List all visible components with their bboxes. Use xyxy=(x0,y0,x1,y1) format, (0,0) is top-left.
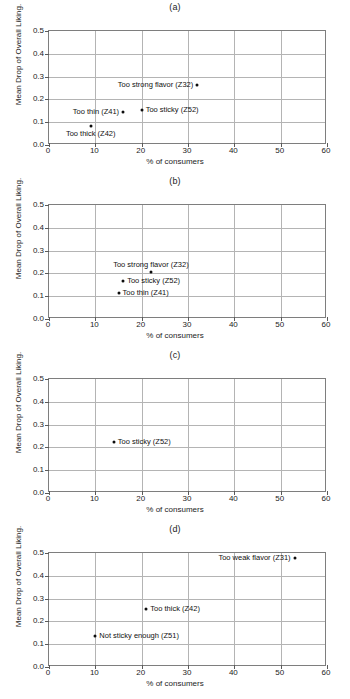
panel-d: (d)Mean Drop of Overall Liking.Too weak … xyxy=(0,522,350,696)
data-point-marker xyxy=(117,291,120,294)
y-tick-mark xyxy=(45,599,49,600)
data-point-label: Not sticky enough (Z51) xyxy=(99,632,179,640)
gridline-vertical xyxy=(142,379,143,491)
y-tick-label: 0.5 xyxy=(33,548,44,557)
y-tick-labels: 0.00.10.20.30.40.5 xyxy=(18,378,44,492)
gridline-horizontal xyxy=(49,228,325,229)
x-tick-label: 10 xyxy=(90,494,99,503)
y-tick-mark xyxy=(45,77,49,78)
data-point-label: Too weak flavor (Z31) xyxy=(218,554,290,562)
gridline-horizontal xyxy=(49,621,325,622)
gridline-horizontal xyxy=(49,425,325,426)
plot-area: Too weak flavor (Z31)Too thick (Z42)Not … xyxy=(48,552,326,666)
y-tick-label: 0.5 xyxy=(33,26,44,35)
y-tick-labels: 0.00.10.20.30.40.5 xyxy=(18,204,44,318)
data-point-marker xyxy=(122,279,125,282)
data-point-marker xyxy=(122,110,125,113)
y-tick-mark xyxy=(45,425,49,426)
x-tick-label: 40 xyxy=(229,146,238,155)
gridline-horizontal xyxy=(49,122,325,123)
x-tick-label: 20 xyxy=(136,320,145,329)
panel-title: (c) xyxy=(0,350,350,360)
y-tick-label: 0.1 xyxy=(33,639,44,648)
data-point-marker xyxy=(145,607,148,610)
x-tick-label: 30 xyxy=(183,320,192,329)
y-tick-label: 0.0 xyxy=(33,314,44,323)
y-tick-labels: 0.00.10.20.30.40.5 xyxy=(18,552,44,666)
gridline-horizontal xyxy=(49,54,325,55)
y-tick-label: 0.2 xyxy=(33,442,44,451)
data-point-marker xyxy=(94,634,97,637)
y-tick-label: 0.5 xyxy=(33,374,44,383)
y-tick-mark xyxy=(45,296,49,297)
x-tick-label: 10 xyxy=(90,320,99,329)
y-tick-label: 0.2 xyxy=(33,94,44,103)
x-tick-label: 10 xyxy=(90,668,99,677)
x-tick-label: 50 xyxy=(275,668,284,677)
y-tick-label: 0.4 xyxy=(33,570,44,579)
gridline-vertical xyxy=(281,553,282,665)
x-tick-label: 30 xyxy=(183,146,192,155)
scatter-panel-figure: (a)Mean Drop of Overall Liking.Too stron… xyxy=(0,0,350,699)
gridline-horizontal xyxy=(49,470,325,471)
x-tick-label: 0 xyxy=(46,320,50,329)
x-tick-label: 0 xyxy=(46,146,50,155)
gridline-vertical xyxy=(281,205,282,317)
y-tick-label: 0.1 xyxy=(33,117,44,126)
x-tick-label: 20 xyxy=(136,668,145,677)
gridline-horizontal xyxy=(49,447,325,448)
gridline-horizontal xyxy=(49,273,325,274)
gridline-horizontal xyxy=(49,77,325,78)
x-axis-title: % of consumers xyxy=(0,679,350,688)
x-tick-label: 60 xyxy=(322,668,331,677)
data-point-marker xyxy=(293,556,296,559)
data-point-label: Too sticky (Z52) xyxy=(127,277,180,285)
data-point-label: Too strong flavor (Z32) xyxy=(118,81,193,89)
x-tick-label: 0 xyxy=(46,494,50,503)
gridline-horizontal xyxy=(49,402,325,403)
y-tick-label: 0.2 xyxy=(33,616,44,625)
y-tick-label: 0.0 xyxy=(33,662,44,671)
gridline-vertical xyxy=(188,379,189,491)
x-tick-label: 40 xyxy=(229,320,238,329)
y-tick-mark xyxy=(45,228,49,229)
y-tick-mark xyxy=(45,644,49,645)
gridline-vertical xyxy=(95,553,96,665)
y-tick-label: 0.5 xyxy=(33,200,44,209)
x-tick-label: 30 xyxy=(183,668,192,677)
x-tick-label: 0 xyxy=(46,668,50,677)
gridline-horizontal xyxy=(49,644,325,645)
y-tick-label: 0.0 xyxy=(33,140,44,149)
y-tick-label: 0.4 xyxy=(33,48,44,57)
gridline-vertical xyxy=(95,379,96,491)
x-tick-label: 60 xyxy=(322,146,331,155)
x-tick-label: 30 xyxy=(183,494,192,503)
y-tick-mark xyxy=(45,621,49,622)
x-tick-label: 60 xyxy=(322,494,331,503)
y-tick-label: 0.3 xyxy=(33,419,44,428)
x-tick-label: 20 xyxy=(136,146,145,155)
y-tick-label: 0.1 xyxy=(33,291,44,300)
data-point-label: Too thick (Z42) xyxy=(66,130,116,138)
gridline-vertical xyxy=(281,31,282,143)
data-point-label: Too thin (Z41) xyxy=(123,289,169,297)
data-point-label: Too thick (Z42) xyxy=(150,605,200,613)
gridline-vertical xyxy=(234,205,235,317)
y-tick-label: 0.0 xyxy=(33,488,44,497)
panel-title: (a) xyxy=(0,2,350,12)
y-tick-label: 0.2 xyxy=(33,268,44,277)
data-point-marker xyxy=(196,83,199,86)
gridline-vertical xyxy=(234,31,235,143)
gridline-horizontal xyxy=(49,99,325,100)
gridline-vertical xyxy=(95,31,96,143)
data-point-label: Too sticky (Z52) xyxy=(118,438,171,446)
plot-area: Too strong flavor (Z32)Too sticky (Z52)T… xyxy=(48,204,326,318)
x-tick-label: 50 xyxy=(275,146,284,155)
y-tick-labels: 0.00.10.20.30.40.5 xyxy=(18,30,44,144)
data-point-marker xyxy=(140,109,143,112)
x-tick-label: 40 xyxy=(229,494,238,503)
data-point-label: Too sticky (Z52) xyxy=(146,107,199,115)
y-tick-label: 0.4 xyxy=(33,396,44,405)
gridline-horizontal xyxy=(49,296,325,297)
panel-title: (d) xyxy=(0,524,350,534)
